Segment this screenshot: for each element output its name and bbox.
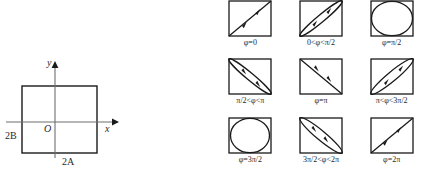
direction-arrow	[323, 136, 328, 142]
direction-arrow	[398, 66, 403, 72]
direction-arrow	[396, 127, 401, 133]
y-axis-label: y	[47, 58, 51, 68]
lissajous-caption: 3π/2<φ<2π	[303, 156, 339, 164]
lissajous-cell: π<φ<3π/2	[358, 58, 426, 105]
lissajous-caption: 0<φ<π/2	[307, 39, 335, 47]
direction-arrow	[311, 125, 316, 131]
lissajous-cell: φ=2π	[358, 117, 426, 164]
narrow-ellipse-trace	[228, 58, 272, 95]
lissajous-frame	[299, 58, 343, 95]
x-axis-label: x	[105, 124, 109, 134]
lissajous-caption: π<φ<3π/2	[376, 97, 408, 105]
lissajous-caption: φ=π	[314, 97, 327, 105]
antidiagonal-line-trace	[300, 59, 342, 94]
narrow-ellipse-trace	[370, 58, 414, 95]
lissajous-grid: φ=0 0<φ<π/2 φ=π/2	[215, 0, 427, 175]
amplitude-box-svg	[0, 0, 214, 175]
lissajous-caption: φ=0	[244, 39, 257, 47]
lissajous-cell: φ=π	[287, 58, 355, 105]
lissajous-frame	[370, 0, 414, 37]
lissajous-figure-grid: φ=0 0<φ<π/2 φ=π/2	[215, 0, 427, 175]
height-dimension-label: 2B	[5, 131, 17, 141]
width-dimension-label: 2A	[62, 157, 74, 167]
circle-trace	[231, 118, 270, 152]
circle-trace	[371, 1, 412, 35]
lissajous-frame	[370, 58, 414, 95]
lissajous-cell: 3π/2<φ<2π	[287, 117, 355, 164]
direction-arrow	[312, 21, 317, 27]
direction-arrow	[256, 9, 261, 15]
origin-label: O	[44, 124, 51, 134]
lissajous-cell: π/2<φ<π	[216, 58, 284, 105]
lissajous-cell: φ=0	[216, 0, 284, 47]
lissajous-frame	[228, 117, 272, 154]
lissajous-frame	[299, 117, 343, 154]
lissajous-caption: φ=2π	[383, 156, 400, 164]
lissajous-caption: φ=3π/2	[239, 156, 262, 164]
x-axis-arrowhead	[112, 119, 119, 126]
lissajous-frame	[228, 58, 272, 95]
lissajous-cell: φ=3π/2	[216, 117, 284, 164]
narrow-ellipse-trace	[299, 0, 343, 37]
lissajous-frame	[370, 117, 414, 154]
lissajous-caption: π/2<φ<π	[236, 97, 264, 105]
diagonal-line-trace	[229, 1, 271, 36]
diagonal-line-trace	[371, 118, 413, 153]
lissajous-caption: φ=π/2	[382, 39, 401, 47]
bounding-rectangle	[22, 86, 97, 153]
amplitude-box-diagram: x y O 2B 2A	[0, 0, 214, 175]
lissajous-frame	[299, 0, 343, 37]
direction-arrow	[242, 69, 247, 75]
direction-arrow	[384, 79, 389, 85]
lissajous-cell: 0<φ<π/2	[287, 0, 355, 47]
y-axis-arrowhead	[52, 61, 59, 68]
lissajous-frame	[228, 0, 272, 37]
narrow-ellipse-trace	[299, 117, 343, 154]
lissajous-cell: φ=π/2	[358, 0, 426, 47]
